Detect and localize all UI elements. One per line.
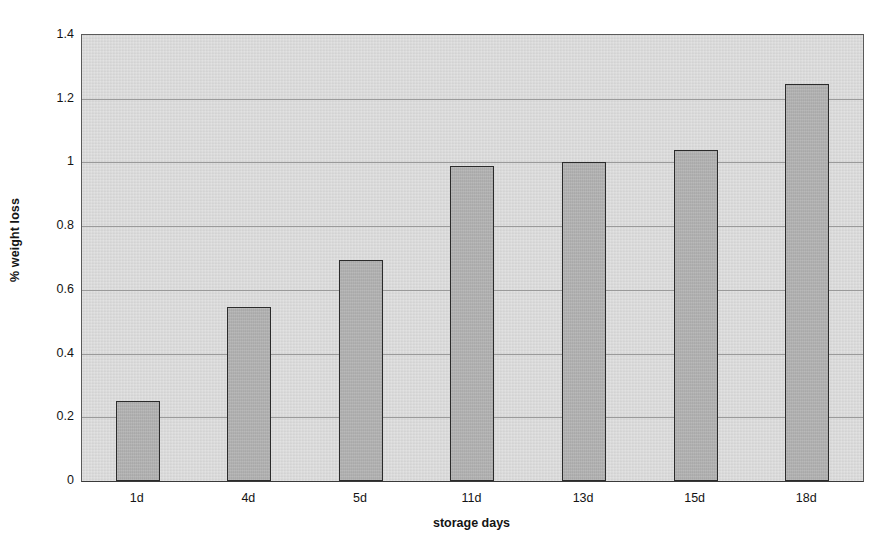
y-axis-tick-label: 0.8 [34, 219, 74, 232]
bar[interactable] [674, 150, 718, 481]
bar[interactable] [116, 401, 160, 481]
plot-area [81, 34, 864, 482]
y-axis-tick-label: 1 [34, 155, 74, 168]
y-axis-tick-label: 1.4 [34, 28, 74, 41]
x-axis-tick-label: 1d [130, 492, 144, 505]
y-axis-title-text: % weight loss [8, 198, 22, 282]
x-axis-tick-label: 5d [353, 492, 367, 505]
bar-slot [751, 35, 863, 481]
bar-slot [194, 35, 306, 481]
x-axis-tick-label: 18d [796, 492, 817, 505]
bar[interactable] [785, 84, 829, 481]
bar[interactable] [339, 260, 383, 481]
y-axis-tick-label: 0.6 [34, 283, 74, 296]
bar[interactable] [227, 307, 271, 481]
y-axis-title: % weight loss [0, 0, 30, 480]
x-axis-tick-label: 15d [684, 492, 705, 505]
y-axis-tick-label: 1.2 [34, 91, 74, 104]
x-axis-tick-label: 13d [573, 492, 594, 505]
y-axis-tick-label: 0.4 [34, 346, 74, 359]
y-axis-tick-label: 0 [34, 474, 74, 487]
bar-slot [417, 35, 529, 481]
bar-slot [82, 35, 194, 481]
y-axis-tick-label: 0.2 [34, 410, 74, 423]
bar-slot [305, 35, 417, 481]
x-axis-tick-label: 4d [241, 492, 255, 505]
x-axis-tick-label: 11d [462, 492, 482, 505]
bar-slot [528, 35, 640, 481]
bar[interactable] [562, 162, 606, 481]
y-axis-tick-labels: 00.20.40.60.811.21.4 [28, 0, 74, 554]
bar-slot [640, 35, 752, 481]
x-axis-tick-labels: 1d4d5d11d13d15d18d [81, 492, 862, 512]
bar-chart-figure: % weight loss 00.20.40.60.811.21.4 1d4d5… [0, 0, 883, 554]
bars-layer [82, 35, 863, 481]
bar[interactable] [450, 166, 494, 481]
x-axis-title: storage days [81, 516, 862, 530]
